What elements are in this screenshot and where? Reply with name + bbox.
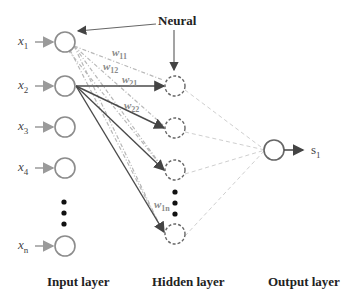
output-node — [264, 140, 284, 160]
weight-label-w11: w11 — [112, 46, 127, 61]
input-label-x1: x1 — [18, 33, 28, 51]
weight-label-w1n: w1n — [154, 198, 170, 213]
weight-label-w21: w21 — [122, 73, 137, 88]
neural-network-diagram: Neural x1 x2 x3 x4 xn w11 w12 w21 w22 w1… — [0, 0, 354, 303]
input-label-x4: x4 — [18, 159, 28, 177]
neural-callout-label: Neural — [158, 13, 196, 29]
input-arrows — [35, 42, 53, 246]
weight-label-w22: w22 — [124, 99, 139, 114]
input-layer-label: Input layer — [47, 274, 109, 290]
solid-edges — [76, 86, 164, 232]
input-label-xn: xn — [18, 237, 28, 255]
weight-label-w12: w12 — [103, 60, 118, 75]
hidden-layer-label: Hidden layer — [152, 274, 225, 290]
input-label-x3: x3 — [18, 118, 28, 136]
hidden-output-edges — [185, 90, 265, 236]
hidden-nodes — [165, 76, 185, 244]
input-ellipsis — [61, 199, 66, 226]
output-label-s1: s1 — [311, 142, 321, 160]
hidden-ellipsis — [172, 189, 177, 216]
input-label-x2: x2 — [18, 77, 28, 95]
output-layer-label: Output layer — [268, 274, 340, 290]
network-graphic — [0, 0, 354, 303]
